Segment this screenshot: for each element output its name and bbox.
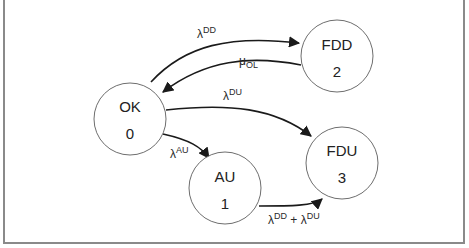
edge-label-lambda-du: λDU xyxy=(223,87,242,103)
node-fdu: FDU 3 xyxy=(306,127,378,199)
edge-ok-to-fdu xyxy=(166,107,311,136)
node-name: FDU xyxy=(327,142,358,159)
node-index: 1 xyxy=(221,195,229,212)
edge-label-lambda-dd-plus-lambda-du: λDD + λDU xyxy=(268,211,320,227)
node-index: 0 xyxy=(126,125,134,142)
node-index: 2 xyxy=(333,63,341,80)
state-diagram: λDD μOL λDU λAU λDD + λDU OK 0 FDD 2 AU … xyxy=(0,0,469,248)
node-circle xyxy=(301,20,373,92)
node-name: OK xyxy=(119,98,141,115)
node-index: 3 xyxy=(338,169,346,186)
node-au: AU 1 xyxy=(189,152,261,224)
edge-label-lambda-dd: λDD xyxy=(197,25,216,41)
edge-label-mu-ol: μOL xyxy=(239,54,258,70)
node-circle xyxy=(189,152,261,224)
node-fdd: FDD 2 xyxy=(301,20,373,92)
node-ok: OK 0 xyxy=(94,83,166,155)
edge-au-to-fdu xyxy=(259,199,322,206)
node-name: FDD xyxy=(322,36,353,53)
edge-label-lambda-au: λAU xyxy=(170,145,189,161)
node-name: AU xyxy=(215,168,236,185)
node-circle xyxy=(306,127,378,199)
node-circle xyxy=(94,83,166,155)
